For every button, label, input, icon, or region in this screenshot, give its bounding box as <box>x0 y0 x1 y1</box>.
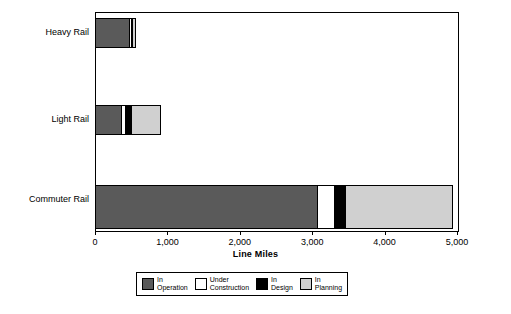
x-tick-1000 <box>167 231 168 235</box>
bar-heavy-rail <box>95 18 136 48</box>
legend-label-under-construction: Under Construction <box>210 276 249 292</box>
y-axis-label-commuter-rail: Commuter Rail <box>0 194 89 205</box>
legend-swatch-in-design <box>256 278 268 290</box>
x-tick-label-1000: 1,000 <box>156 237 179 248</box>
legend-label-in-planning: In Planning <box>315 276 342 292</box>
x-axis-title: Line Miles <box>0 249 511 260</box>
x-tick-3000 <box>312 231 313 235</box>
y-axis-label-light-rail: Light Rail <box>0 114 89 125</box>
legend-swatch-in-planning <box>300 278 312 290</box>
x-tick-label-2000: 2,000 <box>229 237 252 248</box>
bar-light-rail <box>95 105 161 135</box>
legend-label-line1: In <box>271 276 293 284</box>
x-tick-label-4000: 4,000 <box>373 237 396 248</box>
bar-commuter-rail <box>95 185 453 229</box>
legend-label-line2: Construction <box>210 284 249 292</box>
x-axis-line <box>95 231 458 232</box>
legend-label-line2: Design <box>271 284 293 292</box>
x-tick-label-3000: 3,000 <box>301 237 324 248</box>
legend-label-in-operation: In Operation <box>157 276 188 292</box>
legend-item-in-design: In Design <box>256 276 293 292</box>
chart-legend: In Operation Under Construction In Desig… <box>136 272 348 296</box>
legend-swatch-under-construction <box>195 278 207 290</box>
legend-label-line1: Under <box>210 276 249 284</box>
x-tick-5000 <box>457 231 458 235</box>
legend-item-in-operation: In Operation <box>142 276 188 292</box>
legend-item-in-planning: In Planning <box>300 276 342 292</box>
bar-segment-in-planning <box>131 105 161 135</box>
x-tick-label-5000: 5,000 <box>446 237 469 248</box>
y-axis-label-heavy-rail: Heavy Rail <box>0 27 89 38</box>
bar-segment-in-planning <box>345 185 452 229</box>
bar-segment-in-planning <box>132 18 136 48</box>
chart-figure: Heavy Rail Light Rail Commuter Rail 01,0… <box>0 0 511 314</box>
x-tick-2000 <box>240 231 241 235</box>
bar-segment-in-operation <box>95 185 318 229</box>
legend-label-line2: Planning <box>315 284 342 292</box>
x-tick-0 <box>95 231 96 235</box>
x-tick-label-0: 0 <box>92 237 97 248</box>
legend-label-line1: In <box>157 276 188 284</box>
bar-segment-in-operation <box>95 18 130 48</box>
legend-item-under-construction: Under Construction <box>195 276 249 292</box>
x-tick-4000 <box>385 231 386 235</box>
bar-segment-in-operation <box>95 105 122 135</box>
legend-label-in-design: In Design <box>271 276 293 292</box>
bar-segment-under-construction <box>317 185 335 229</box>
legend-label-line1: In <box>315 276 342 284</box>
legend-swatch-in-operation <box>142 278 154 290</box>
legend-label-line2: Operation <box>157 284 188 292</box>
